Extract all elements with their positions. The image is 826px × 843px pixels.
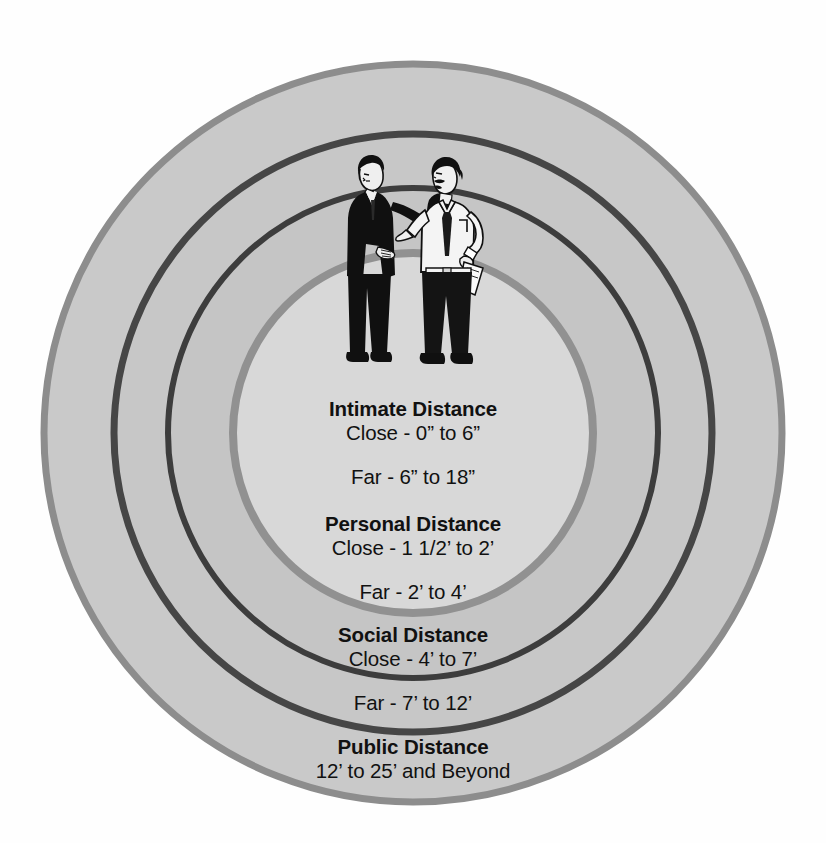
zone-close-intimate: Close - 0” to 6” — [0, 421, 826, 445]
zone-close-personal: Close - 1 1/2’ to 2’ — [0, 536, 826, 560]
zone-spacer-social — [0, 671, 826, 691]
zone-close-social: Close - 4’ to 7’ — [0, 647, 826, 671]
zone-far-intimate: Far - 6” to 18” — [0, 465, 826, 489]
zone-far-personal: Far - 2’ to 4’ — [0, 580, 826, 604]
zone-range-public: 12’ to 25’ and Beyond — [0, 759, 826, 783]
zone-title-public: Public Distance — [0, 735, 826, 759]
zone-title-intimate: Intimate Distance — [0, 397, 826, 421]
zone-spacer-personal — [0, 560, 826, 580]
illustration-two-men-conversing — [333, 148, 503, 376]
zone-label-public: Public Distance 12’ to 25’ and Beyond — [0, 735, 826, 783]
zone-far-social: Far - 7’ to 12’ — [0, 691, 826, 715]
zone-label-social: Social Distance Close - 4’ to 7’ Far - 7… — [0, 623, 826, 716]
zone-spacer-intimate — [0, 445, 826, 465]
zone-label-personal: Personal Distance Close - 1 1/2’ to 2’ F… — [0, 512, 826, 605]
zone-title-social: Social Distance — [0, 623, 826, 647]
zone-title-personal: Personal Distance — [0, 512, 826, 536]
diagram-canvas: Intimate Distance Close - 0” to 6” Far -… — [0, 0, 826, 843]
right-figure-man-in-white-shirt — [396, 157, 483, 364]
zone-label-intimate: Intimate Distance Close - 0” to 6” Far -… — [0, 397, 826, 490]
